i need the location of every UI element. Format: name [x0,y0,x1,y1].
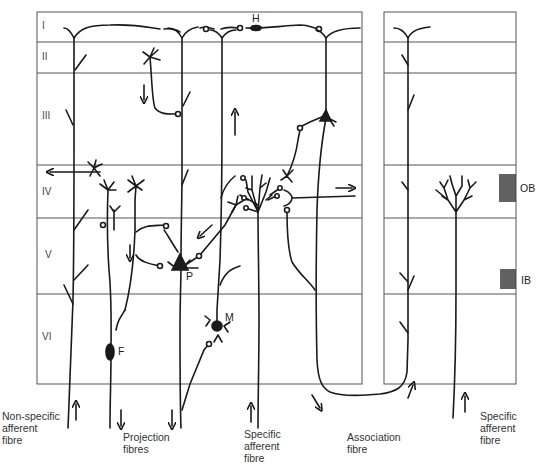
pyramidal-cell-iii-body [320,110,331,121]
association-down-arrow [312,395,320,408]
caption-specific-afferent-left: Specific afferent fibre [244,428,281,464]
layer-label-vi: VI [42,331,51,342]
outer-band-of-baillarger [499,174,516,202]
cell-label-fusiform: F [118,345,124,357]
layer-iv-outgoing-axon [284,190,355,206]
caption-projection-fibres: Projection fibres [123,431,170,455]
cell-label-martinotti: M [225,311,234,323]
inner-band-of-baillarger [500,269,516,289]
specific-afferent-fibre-right [436,176,476,418]
layer-label-ii: II [42,51,48,62]
layer-iv-stellate-small [88,160,102,176]
cortical-layers-diagram [0,0,544,466]
cell-label-pyramidal: P [186,270,193,282]
layer-label-v: V [45,249,52,260]
fusiform-cell-fibre [100,176,144,428]
layer-label-i: I [42,20,45,31]
layer-ii-stellate-cell [143,48,176,114]
layer-label-iii: III [42,110,50,121]
cell-label-horizontal: H [252,12,260,24]
pyramidal-cell-body [172,254,188,270]
fusiform-cell-body [106,344,114,360]
layer-v-descending-axon [287,212,315,290]
band-label-ob: OB [520,182,535,194]
horizontal-cell-body [251,26,261,31]
layer-label-iv: IV [42,186,51,197]
down-left-arrow-layer-v [200,225,212,236]
caption-association-fibre: Association fibre [347,431,401,455]
layer-iv-stellate-upper [281,130,300,182]
martinotti-cell-fibre [205,30,240,342]
pyramidal-cell-fibre [136,27,208,428]
specific-afferent-fibre-left [240,175,280,428]
caption-non-specific-afferent: Non-specific afferent fibre [2,410,60,446]
band-label-ib: IB [521,274,531,286]
martinotti-cell-body [212,321,222,331]
association-fibre [302,27,430,395]
association-up-arrow [408,385,413,398]
caption-specific-afferent-right: Specific afferent fibre [480,410,517,446]
